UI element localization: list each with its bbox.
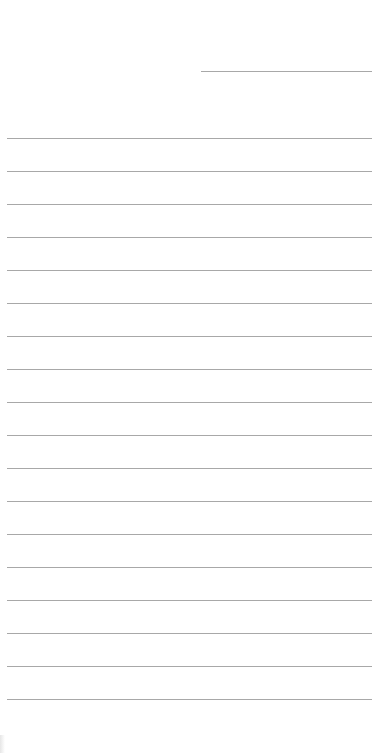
ruled-line bbox=[7, 534, 372, 535]
ruled-line bbox=[7, 171, 372, 172]
ruled-line bbox=[7, 402, 372, 403]
ruled-line bbox=[7, 699, 372, 700]
ruled-line bbox=[7, 138, 372, 139]
header-date-line bbox=[201, 71, 372, 72]
ruled-line bbox=[7, 369, 372, 370]
ruled-line bbox=[7, 270, 372, 271]
ruled-line bbox=[7, 567, 372, 568]
ruled-line bbox=[7, 468, 372, 469]
ruled-line bbox=[7, 336, 372, 337]
ruled-line bbox=[7, 633, 372, 634]
ruled-line bbox=[7, 501, 372, 502]
lined-paper-page bbox=[0, 0, 378, 753]
ruled-line bbox=[7, 435, 372, 436]
corner-shadow bbox=[0, 735, 5, 753]
ruled-line bbox=[7, 237, 372, 238]
ruled-line bbox=[7, 666, 372, 667]
ruled-line bbox=[7, 600, 372, 601]
ruled-line bbox=[7, 204, 372, 205]
ruled-line bbox=[7, 303, 372, 304]
